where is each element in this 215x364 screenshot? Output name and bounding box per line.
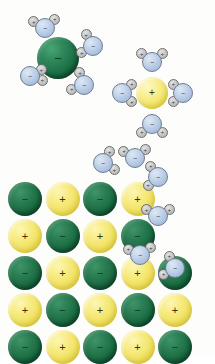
lattice-ion-r4-c4-charge-label: − <box>158 330 192 364</box>
solvated-cation: + <box>136 77 168 109</box>
lattice-ion-r3-c3-charge-label: − <box>121 293 155 327</box>
lattice-ion-r0-c0: − <box>8 182 42 216</box>
detaching-water-4 <box>141 199 175 233</box>
cation-shell-water-2 <box>105 76 139 110</box>
lattice-ion-r3-c0-charge-label: + <box>8 293 42 327</box>
cation-shell-water-1 <box>135 45 169 79</box>
anion-shell-water-3 <box>13 59 47 93</box>
anion-shell-water-2 <box>76 29 110 63</box>
detaching-water-5 <box>123 238 157 272</box>
lattice-ion-r1-c2-charge-label: + <box>83 219 117 253</box>
lattice-ion-r2-c2-charge-label: − <box>83 256 117 290</box>
water-oxygen <box>173 83 193 103</box>
lattice-ion-r4-c1-charge-label: + <box>46 330 80 364</box>
lattice-ion-r3-c0: + <box>8 293 42 327</box>
lattice-ion-r4-c4: − <box>158 330 192 364</box>
lattice-ion-r3-c1-charge-label: − <box>46 293 80 327</box>
lattice-ion-r0-c1: + <box>46 182 80 216</box>
solvated-cation-charge-label: + <box>136 77 168 109</box>
lattice-ion-r3-c1: − <box>46 293 80 327</box>
lattice-ion-r2-c0-charge-label: − <box>8 256 42 290</box>
water-oxygen <box>142 52 162 72</box>
lattice-ion-r2-c1-charge-label: + <box>46 256 80 290</box>
water-oxygen <box>74 75 94 95</box>
detaching-water-3 <box>141 160 175 194</box>
lattice-ion-r4-c3-charge-label: + <box>121 330 155 364</box>
water-oxygen <box>130 245 150 265</box>
lattice-ion-r3-c2-charge-label: + <box>83 293 117 327</box>
lattice-ion-r2-c2: − <box>83 256 117 290</box>
lattice-ion-r4-c0-charge-label: − <box>8 330 42 364</box>
cation-shell-water-3 <box>166 76 200 110</box>
lattice-ion-r1-c1: − <box>46 219 80 253</box>
water-oxygen <box>165 258 185 278</box>
lattice-ion-r4-c1: + <box>46 330 80 364</box>
water-oxygen <box>148 206 168 226</box>
lattice-ion-r4-c2-charge-label: − <box>83 330 117 364</box>
lattice-ion-r3-c4: + <box>158 293 192 327</box>
lattice-ion-r3-c3: − <box>121 293 155 327</box>
lattice-ion-r4-c2: − <box>83 330 117 364</box>
water-oxygen <box>112 83 132 103</box>
lattice-ion-r4-c0: − <box>8 330 42 364</box>
water-oxygen <box>125 148 145 168</box>
lattice-ion-r0-c0-charge-label: − <box>8 182 42 216</box>
water-oxygen <box>142 114 162 134</box>
detaching-water-1 <box>86 146 120 180</box>
cation-shell-water-4 <box>135 107 169 141</box>
lattice-ion-r3-c2: + <box>83 293 117 327</box>
lattice-ion-r1-c0-charge-label: + <box>8 219 42 253</box>
lattice-ion-r4-c3: + <box>121 330 155 364</box>
lattice-ion-r1-c1-charge-label: − <box>46 219 80 253</box>
water-oxygen <box>93 153 113 173</box>
lattice-ion-r3-c4-charge-label: + <box>158 293 192 327</box>
water-oxygen <box>83 36 103 56</box>
lattice-ion-r0-c2: − <box>83 182 117 216</box>
lattice-ion-r0-c1-charge-label: + <box>46 182 80 216</box>
detaching-water-6 <box>158 251 192 285</box>
water-oxygen <box>20 66 40 86</box>
lattice-ion-r1-c2: + <box>83 219 117 253</box>
lattice-ion-r0-c2-charge-label: − <box>83 182 117 216</box>
lattice-ion-r1-c0: + <box>8 219 42 253</box>
water-oxygen <box>35 18 55 38</box>
water-oxygen <box>148 167 168 187</box>
lattice-ion-r2-c1: + <box>46 256 80 290</box>
lattice-ion-r2-c0: − <box>8 256 42 290</box>
